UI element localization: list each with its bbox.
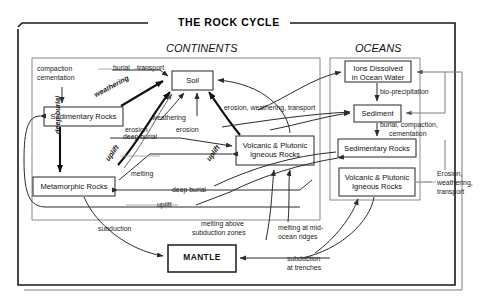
label-melting-ridges-line2: ocean ridges bbox=[278, 233, 317, 241]
label-uplift-lower: uplift bbox=[157, 201, 172, 209]
label-cementation: cementation bbox=[37, 74, 75, 82]
continent-ocean-arrows bbox=[222, 72, 350, 130]
box-shapes bbox=[33, 61, 416, 272]
box-label-line2: Igneous Rocks bbox=[236, 150, 314, 159]
box-label-line1: Ions Dissolved bbox=[345, 64, 411, 73]
label-melting-above-line1: melting above bbox=[201, 220, 244, 228]
label-erosion-weathering-transport: erosion, weathering, transport bbox=[224, 104, 315, 112]
label-deep-burial-lower: deep burial bbox=[172, 186, 206, 194]
label-erosion-right-line3: transport bbox=[437, 188, 464, 196]
box-label-volcanic-plutonic-continents: Volcanic & Plutonic Igneous Rocks bbox=[236, 141, 314, 159]
label-melting-ridges-line1: melting at mid- bbox=[278, 224, 323, 232]
label-burial-compaction-line2: cementation bbox=[389, 130, 427, 138]
label-melting: melting bbox=[131, 170, 153, 178]
box-label-line2: Igneous Rocks bbox=[339, 182, 415, 191]
label-subduction: subduction bbox=[98, 225, 131, 233]
box-label-line2: in Ocean Water bbox=[345, 73, 411, 82]
label-burial: burial bbox=[113, 64, 130, 72]
label-deep-burial-upper: deep burial bbox=[123, 133, 157, 141]
label-erosion-right-line1: Erosion, bbox=[437, 170, 462, 178]
label-subduction-trenches-line2: at trenches bbox=[287, 264, 321, 272]
label-weathering-mid: weathering bbox=[152, 114, 186, 122]
panel-title-oceans: OCEANS bbox=[355, 42, 401, 54]
label-subduction-trenches-line1: subduction bbox=[287, 255, 320, 263]
label-transport: transport bbox=[137, 64, 164, 72]
label-compaction: compaction bbox=[37, 65, 72, 73]
label-burial-compaction-line1: burial, compaction, bbox=[380, 121, 438, 129]
rock-cycle-diagram: THE ROCK CYCLE CONTINENTS OCEANS Soil Se… bbox=[0, 0, 493, 301]
label-bio-precipitation: bio-precipitation bbox=[380, 88, 429, 96]
label-erosion-mid: erosion bbox=[176, 126, 199, 134]
box-label-line1: Volcanic & Plutonic bbox=[236, 141, 314, 150]
box-label-ions-dissolved: Ions Dissolved in Ocean Water bbox=[345, 64, 411, 82]
label-deep-burial-vertical: deep burial bbox=[54, 96, 62, 134]
diagram-title: THE ROCK CYCLE bbox=[178, 16, 280, 28]
box-label-volcanic-plutonic-ocean: Volcanic & Plutonic Igneous Rocks bbox=[339, 173, 415, 191]
box-label-line1: Volcanic & Plutonic bbox=[339, 173, 415, 182]
label-erosion-right-line2: weathering, bbox=[437, 179, 473, 187]
panel-title-continents: CONTINENTS bbox=[166, 42, 238, 54]
label-melting-above-line2: subduction zones bbox=[192, 229, 246, 237]
